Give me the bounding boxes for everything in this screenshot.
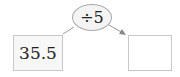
operation-oval: ÷5 [72,4,112,31]
operation-label: ÷5 [80,8,104,27]
input-value: 35.5 [19,43,57,63]
arrow-head-icon [119,29,126,35]
input-value-box: 35.5 [13,35,63,71]
output-answer-box[interactable] [128,35,172,71]
input-connector-line [63,27,74,34]
